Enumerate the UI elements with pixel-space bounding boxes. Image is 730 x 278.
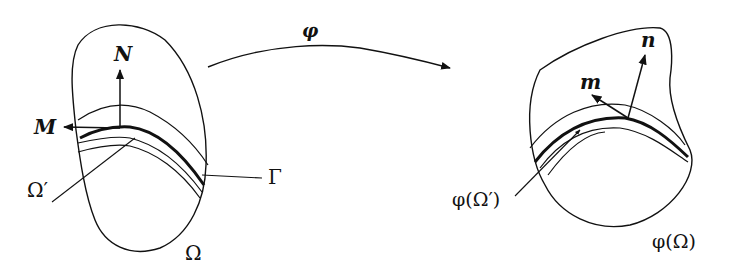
label-tangent-M: M (34, 117, 56, 137)
label-phi-mapping: φ (302, 22, 318, 40)
tangent-vector-M-arrow (64, 127, 120, 128)
gamma-interface-curve (80, 127, 204, 185)
diagram-canvas (0, 0, 730, 278)
label-omega: Ω (185, 243, 202, 263)
omega-prime-lower-boundary-1 (78, 137, 202, 192)
omega-prime-upper-boundary (78, 105, 208, 165)
mapping-arrow (208, 46, 450, 68)
omega-prime-leader-line (52, 138, 135, 202)
label-omega-prime: Ω′ (27, 180, 48, 200)
phi-mapping-arrow (208, 46, 450, 68)
label-normal-n: n (641, 30, 656, 50)
phi-omega-prime-leader-line (515, 130, 580, 196)
label-phi-omega: φ(Ω) (652, 232, 696, 251)
label-phi-omega-prime: φ(Ω′) (452, 190, 500, 209)
label-normal-N: N (114, 44, 132, 64)
deformation-diagram: N M Ω′ Γ Ω φ n m φ(Ω′) φ(Ω) (0, 0, 730, 278)
label-gamma: Γ (268, 167, 282, 187)
label-tangent-m: m (580, 72, 601, 92)
target-domain (515, 28, 692, 227)
omega-prime-lower-boundary-2 (78, 145, 200, 198)
gamma-leader-line (202, 175, 262, 178)
tangent-vector-m-arrow (592, 95, 628, 118)
